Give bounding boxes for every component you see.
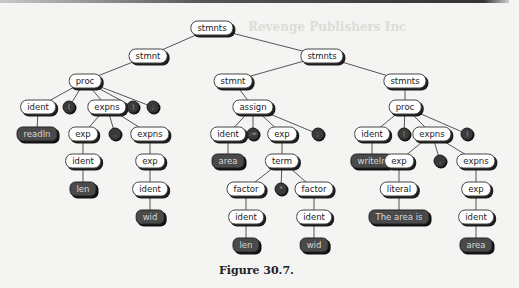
nonterminal-node: stmnts <box>383 74 426 89</box>
nonterminal-node: literal <box>380 182 418 197</box>
nonterminal-node: exp <box>267 127 297 142</box>
tree-edges <box>0 0 519 288</box>
nonterminal-node: exp <box>68 127 98 142</box>
token-node: := <box>247 128 260 141</box>
nonterminal-node: assign <box>232 100 273 115</box>
terminal-node: readln <box>17 127 58 142</box>
nonterminal-node: term <box>265 154 299 169</box>
token-node: , <box>109 128 122 141</box>
nonterminal-node: exp <box>135 154 165 169</box>
nonterminal-node: ident <box>296 210 332 225</box>
nonterminal-node: stmnts <box>190 21 233 36</box>
nonterminal-node: ident <box>458 210 494 225</box>
nonterminal-node: exp <box>384 154 414 169</box>
terminal-node: len <box>70 182 97 197</box>
token-node: ) <box>461 128 474 141</box>
nonterminal-node: stmnts <box>300 49 343 64</box>
token-node: ; <box>147 101 160 114</box>
nonterminal-node: expns <box>130 127 169 142</box>
nonterminal-node: exp <box>461 182 491 197</box>
terminal-node: wid <box>136 210 165 225</box>
terminal-node: area <box>212 154 245 169</box>
nonterminal-node: ident <box>210 127 246 142</box>
token-node: ; <box>312 128 325 141</box>
token-node: , <box>434 155 447 168</box>
nonterminal-node: expns <box>87 100 126 115</box>
nonterminal-node: proc <box>389 100 422 115</box>
nonterminal-node: factor <box>227 182 266 197</box>
nonterminal-node: ident <box>354 127 390 142</box>
nonterminal-node: ident <box>65 154 101 169</box>
terminal-node: area <box>460 238 493 253</box>
terminal-node: The area is <box>369 210 430 225</box>
token-node: * <box>275 183 288 196</box>
nonterminal-node: ident <box>20 100 56 115</box>
token-node: ) <box>127 101 140 114</box>
nonterminal-node: ident <box>132 182 168 197</box>
terminal-node: len <box>233 238 260 253</box>
nonterminal-node: factor <box>295 182 334 197</box>
nonterminal-node: expns <box>412 127 451 142</box>
token-node: ( <box>63 101 76 114</box>
nonterminal-node: expns <box>456 154 495 169</box>
figure-caption: Figure 30.7. <box>219 264 294 277</box>
nonterminal-node: ident <box>228 210 264 225</box>
nonterminal-node: stmnt <box>214 74 253 89</box>
terminal-node: wid <box>300 238 329 253</box>
nonterminal-node: proc <box>69 74 102 89</box>
nonterminal-node: stmnt <box>129 49 168 64</box>
token-node: ( <box>398 128 411 141</box>
